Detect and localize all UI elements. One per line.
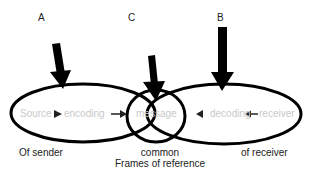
caption-frames-of-reference: Frames of reference bbox=[115, 159, 205, 169]
node-message: message bbox=[136, 109, 177, 119]
node-encoding: encoding bbox=[64, 109, 105, 119]
arrow-c-label: C bbox=[128, 13, 135, 23]
node-source: Source bbox=[20, 109, 52, 119]
node-receiver: receiver bbox=[259, 109, 295, 119]
caption-sender: Of sender bbox=[19, 148, 63, 158]
node-decoding: decoding bbox=[210, 109, 251, 119]
caption-common: common bbox=[141, 148, 179, 158]
caption-receiver: of receiver bbox=[241, 148, 288, 158]
arrow-b-label: B bbox=[217, 13, 224, 23]
arrow-a-label: A bbox=[38, 13, 45, 23]
